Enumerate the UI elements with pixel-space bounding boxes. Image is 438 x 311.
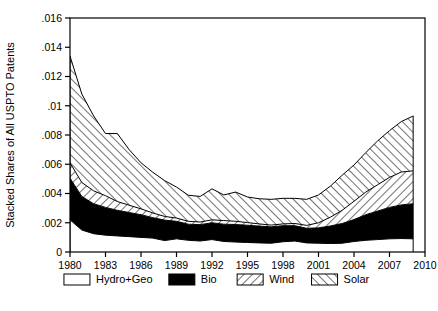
x-tick-label: 2010: [413, 259, 437, 271]
x-tick-label: 2007: [378, 259, 402, 271]
x-tick-label: 1989: [165, 259, 189, 271]
stacked-area-chart: 0.002.004.006.008.01.012.014.016 1980198…: [0, 0, 438, 311]
y-tick-label: .008: [42, 129, 63, 141]
y-tick-label: .006: [42, 158, 63, 170]
legend-swatch-bio: [169, 274, 195, 285]
x-tick-label: 1983: [94, 259, 118, 271]
legend-swatch-solar: [312, 274, 338, 285]
legend-label: Bio: [201, 273, 217, 285]
legend-swatch-hydro-geo: [64, 274, 90, 285]
x-tick-label: 1980: [58, 259, 82, 271]
y-tick-label: .016: [42, 12, 63, 24]
x-tick-label: 1995: [236, 259, 260, 271]
y-tick-label: .004: [42, 187, 63, 199]
x-axis-ticks: 1980198319861989199219951998200120042007…: [58, 252, 437, 271]
legend-label: Hydro+Geo: [96, 273, 153, 285]
x-tick-label: 1992: [200, 259, 224, 271]
cropped-caption-text: [0, 297, 438, 311]
y-tick-label: 0: [56, 246, 62, 258]
legend-label: Solar: [344, 273, 370, 285]
x-tick-label: 2004: [342, 259, 366, 271]
y-tick-label: .014: [42, 41, 63, 53]
x-tick-label: 1986: [129, 259, 153, 271]
legend-label: Wind: [269, 273, 294, 285]
y-axis-ticks: 0.002.004.006.008.01.012.014.016: [42, 12, 70, 258]
y-axis-label: Stacked Shares of All USPTO Patents: [4, 42, 16, 228]
y-tick-label: .012: [42, 70, 63, 82]
y-tick-label: .01: [47, 100, 62, 112]
legend-swatch-wind: [237, 274, 263, 285]
x-tick-label: 1998: [271, 259, 295, 271]
y-tick-label: .002: [42, 217, 63, 229]
area-bands-group: [70, 56, 413, 252]
x-tick-label: 2001: [307, 259, 331, 271]
figure-container: 0.002.004.006.008.01.012.014.016 1980198…: [0, 0, 438, 311]
cropped-top-text: [0, 0, 438, 13]
chart-legend: Hydro+GeoBioWindSolar: [64, 273, 370, 285]
